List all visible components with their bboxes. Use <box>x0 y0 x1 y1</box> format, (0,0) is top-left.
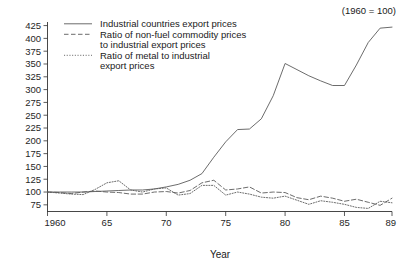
y-tick-label: 200 <box>25 135 41 146</box>
legend-label: Ratio of non-fuel commodity prices <box>100 29 247 40</box>
y-tick-label: 375 <box>25 46 41 57</box>
x-tick-label: 85 <box>339 217 350 228</box>
legend-label: to industrial export prices <box>100 39 206 50</box>
x-tick-label: 65 <box>102 217 113 228</box>
y-tick-label: 425 <box>25 20 41 31</box>
y-tick-label: 75 <box>30 199 41 210</box>
line-chart: (1960 = 100) 751001251501752002252502753… <box>0 0 404 265</box>
y-tick-label: 150 <box>25 161 41 172</box>
y-tick-label: 325 <box>25 71 41 82</box>
x-tick-label: 70 <box>161 217 172 228</box>
x-axis-title: Year <box>210 249 231 260</box>
legend-label: Industrial countries export prices <box>100 18 237 29</box>
x-tick-label: 80 <box>280 217 291 228</box>
chart-note: (1960 = 100) <box>342 5 396 16</box>
y-tick-label: 175 <box>25 148 41 159</box>
y-tick-label: 400 <box>25 33 41 44</box>
y-tick-label: 250 <box>25 110 41 121</box>
y-tick-label: 125 <box>25 174 41 185</box>
y-tick-label: 275 <box>25 97 41 108</box>
legend-label: Ratio of metal to industrial <box>100 50 210 61</box>
y-tick-label: 350 <box>25 58 41 69</box>
x-tick-label: 89 <box>385 217 396 228</box>
chart-container: (1960 = 100) 751001251501752002252502753… <box>0 0 404 265</box>
x-tick-label: 1960 <box>45 217 66 228</box>
y-tick-label: 100 <box>25 186 41 197</box>
y-tick-label: 300 <box>25 84 41 95</box>
legend-label: export prices <box>100 60 155 71</box>
x-tick-label: 75 <box>220 217 231 228</box>
y-tick-label: 225 <box>25 122 41 133</box>
